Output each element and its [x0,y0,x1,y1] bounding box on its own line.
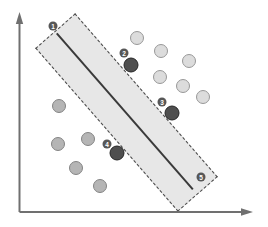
svm-diagram: 12345 [0,0,268,227]
badge-3: 3 [158,98,167,107]
badge-1: 1 [49,22,58,31]
badge-4: 4 [103,140,112,149]
badges-layer: 12345 [0,0,268,227]
badge-5: 5 [197,173,206,182]
badge-2: 2 [120,49,129,58]
